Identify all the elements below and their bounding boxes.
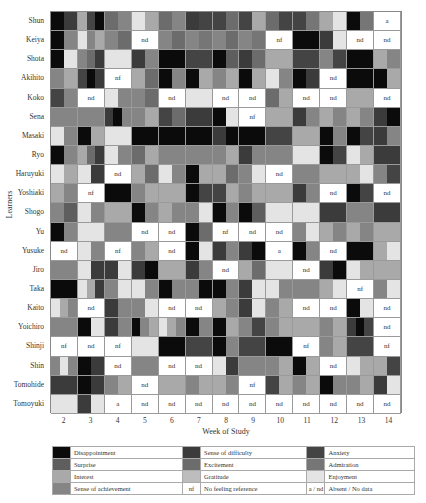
heatmap-cell: nd [293, 395, 320, 413]
heatmap-cell [374, 376, 401, 394]
emotion-segment [306, 12, 319, 30]
heatmap-cell: nd [347, 31, 374, 49]
heatmap-cell [266, 50, 293, 68]
emotion-segment [279, 50, 292, 68]
emotion-segment [213, 318, 226, 336]
emotion-segment [320, 12, 333, 30]
emotion-segment [105, 261, 118, 279]
heatmap-cell [51, 12, 78, 30]
heatmap-cell: nd [374, 318, 401, 336]
heatmap-cell [293, 376, 320, 394]
emotion-segment [159, 165, 172, 183]
heatmap-cell [132, 146, 159, 164]
emotion-segment [64, 146, 77, 164]
emotion-segment [186, 165, 199, 183]
emotion-segment [60, 357, 69, 375]
emotion-segment [176, 318, 185, 336]
emotion-segment [105, 50, 118, 68]
emotion-segment [159, 280, 172, 298]
emotion-segment [239, 357, 252, 375]
emotion-segment [213, 376, 226, 394]
emotion-segment [87, 280, 96, 298]
emotion-segment [118, 261, 131, 279]
heatmap-cell: nf [105, 337, 132, 355]
heatmap-cell [213, 337, 240, 355]
legend-code: a / nd [307, 483, 325, 495]
emotion-segment [199, 261, 212, 279]
emotion-segment [226, 50, 239, 68]
emotion-segment [91, 165, 104, 183]
heatmap-cell: nd [132, 395, 159, 413]
emotion-segment [95, 50, 104, 68]
y-axis-label: Learners [5, 191, 14, 219]
heatmap-cell [132, 203, 159, 221]
emotion-segment [172, 146, 185, 164]
heatmap-cell [239, 184, 266, 202]
heatmap-cell: nd [186, 395, 213, 413]
emotion-segment [118, 299, 131, 317]
emotion-segment [347, 12, 360, 30]
emotion-segment [68, 299, 77, 317]
emotion-segment [213, 165, 226, 183]
learner-label: Shogo [25, 202, 44, 221]
learner-label: Jiro [33, 260, 44, 279]
emotion-segment [132, 280, 145, 298]
emotion-segment [132, 242, 145, 260]
legend-swatch [307, 459, 325, 471]
heatmap-cell: nd [186, 299, 213, 317]
emotion-segment [226, 12, 239, 30]
emotion-segment [51, 31, 64, 49]
heatmap-cell [51, 318, 78, 336]
emotion-segment [132, 165, 145, 183]
emotion-segment [279, 203, 292, 221]
heatmap-cell [239, 318, 266, 336]
emotion-segment [64, 261, 77, 279]
emotion-segment [374, 69, 387, 87]
emotion-segment [387, 69, 400, 87]
emotion-segment [199, 165, 212, 183]
learner-label: Shota [27, 49, 44, 68]
emotion-segment [347, 50, 360, 68]
emotion-segment [360, 261, 373, 279]
emotion-segment [387, 203, 400, 221]
emotion-segment [333, 337, 346, 355]
emotion-segment [78, 69, 87, 87]
emotion-segment [132, 69, 145, 87]
heatmap-cell [51, 184, 78, 202]
emotion-segment [105, 299, 118, 317]
emotion-segment [78, 395, 91, 413]
emotion-segment [239, 127, 252, 145]
x-tick: 3 [81, 416, 101, 425]
learner-label: Yu [36, 222, 44, 241]
heatmap-cell [186, 127, 213, 145]
emotion-segment [105, 184, 118, 202]
emotion-segment [213, 108, 226, 126]
emotion-segment [252, 337, 265, 355]
emotion-segment [252, 318, 265, 336]
emotion-segment [118, 184, 131, 202]
heatmap-cell [51, 127, 78, 145]
heatmap-cell [266, 261, 293, 279]
emotion-segment [293, 280, 306, 298]
emotion-segment [306, 31, 319, 49]
emotion-segment [186, 280, 199, 298]
emotion-segment [186, 261, 199, 279]
heatmap-cell: nf [78, 184, 105, 202]
heatmap-cell: nf [347, 280, 374, 298]
heatmap-cell [105, 280, 132, 298]
emotion-segment [91, 203, 104, 221]
heatmap-cell [105, 223, 132, 241]
emotion-segment [213, 184, 226, 202]
emotion-segment [226, 280, 239, 298]
heatmap-cell [320, 280, 347, 298]
emotion-segment [172, 203, 185, 221]
heatmap-cell: nd [266, 395, 293, 413]
heatmap-cell: nd [320, 89, 347, 107]
emotion-segment [387, 223, 400, 241]
heatmap-cell [51, 50, 78, 68]
learner-label: Keiya [26, 30, 44, 49]
emotion-segment [186, 337, 199, 355]
heatmap-cell [105, 127, 132, 145]
heatmap-cell: nd [159, 242, 186, 260]
emotion-segment [78, 50, 87, 68]
